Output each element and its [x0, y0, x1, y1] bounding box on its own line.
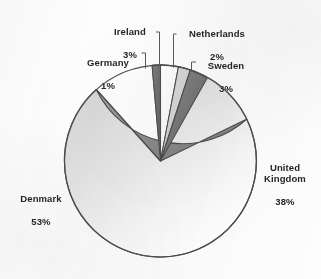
pie-label-sweden-name: Sweden — [196, 60, 256, 72]
pie-label-denmark: Denmark 53% — [6, 181, 76, 239]
pie-label-ireland-name: Ireland — [98, 26, 162, 38]
pie-label-sweden: Sweden 3% — [196, 48, 256, 106]
pie-label-denmark-value: 53% — [6, 216, 76, 228]
pie-label-germany: Germany 1% — [76, 45, 140, 103]
pie-label-germany-value: 1% — [76, 80, 140, 92]
pie-label-germany-name: Germany — [76, 57, 140, 69]
pie-chart-figure: Ireland 3% Netherlands 2% Germany 1% Swe… — [0, 0, 321, 279]
pie-label-united-kingdom-name: United Kingdom — [256, 162, 314, 185]
pie-label-denmark-name: Denmark — [6, 193, 76, 205]
pie-label-united-kingdom-value: 38% — [256, 196, 314, 208]
pie-label-sweden-value: 3% — [196, 83, 256, 95]
pie-label-united-kingdom: United Kingdom 38% — [256, 150, 314, 219]
pie-label-netherlands-name: Netherlands — [176, 28, 258, 40]
